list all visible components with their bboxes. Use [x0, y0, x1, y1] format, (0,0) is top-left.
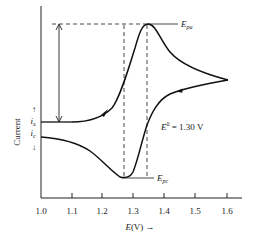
x-tick-labels: 1.0 1.1 1.2 1.3 1.4 1.5 1.6: [35, 206, 233, 216]
i-c-label: ic: [30, 128, 36, 139]
cathodic-down-arrow: ↓: [32, 143, 36, 152]
cyclic-voltammogram-figure: 1.0 1.1 1.2 1.3 1.4 1.5 1.6 E(V) → Curre…: [0, 0, 255, 243]
x-tick-label: 1.0: [35, 206, 47, 216]
current-markers: ↑ ia ic ↓: [30, 105, 36, 152]
anodic-up-arrow: ↑: [32, 105, 36, 114]
chart-svg: 1.0 1.1 1.2 1.3 1.4 1.5 1.6 E(V) → Curre…: [0, 0, 255, 243]
x-tick-label: 1.5: [189, 206, 201, 216]
x-tick-label: 1.2: [96, 206, 107, 216]
formal-potential-label: E0 = 1.30 V: [160, 121, 204, 132]
i-a-label: ia: [30, 116, 36, 127]
dashed-guides: [52, 24, 147, 176]
x-tick-label: 1.1: [66, 206, 77, 216]
x-tick-label: 1.4: [158, 206, 170, 216]
peak-current-arrow: [56, 24, 62, 122]
x-axis-title: E(V) →: [124, 222, 154, 232]
forward-scan-curve: [72, 24, 228, 122]
epa-label: Epa: [180, 19, 193, 30]
y-axis-title: Current: [12, 118, 22, 146]
x-tick-label: 1.3: [127, 206, 139, 216]
epc-label: Epc: [156, 173, 169, 184]
x-ticks: [72, 193, 227, 198]
x-tick-label: 1.6: [221, 206, 233, 216]
